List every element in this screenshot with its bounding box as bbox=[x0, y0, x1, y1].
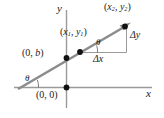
diagram-canvas bbox=[0, 0, 164, 118]
origin-label: (0, 0) bbox=[36, 90, 58, 100]
point-x2-y2 bbox=[122, 24, 128, 30]
y-intercept-label: (0, b) bbox=[22, 48, 44, 58]
delta-x-label: Δx bbox=[93, 54, 103, 64]
point-x1-y1 bbox=[77, 49, 83, 55]
paren-close: ) bbox=[54, 89, 57, 100]
theta-label-at-x-axis: θ bbox=[25, 74, 29, 83]
paren-close: ) bbox=[40, 47, 43, 58]
delta-y-label: Δy bbox=[130, 30, 140, 40]
paren-close: ) bbox=[127, 1, 130, 12]
point-origin bbox=[64, 85, 70, 91]
theta-label-at-point1: θ bbox=[96, 38, 100, 47]
y-axis-label: y bbox=[57, 3, 62, 14]
slope-diagram: y x (x2, y2) (x1, y1) Δy Δx (0, b) (0, 0… bbox=[0, 0, 164, 118]
paren-close: ) bbox=[83, 26, 86, 37]
point-label-x1-y1: (x1, y1) bbox=[60, 27, 87, 38]
point-label-x2-y2: (x2, y2) bbox=[104, 2, 131, 13]
theta-arc-at-x-axis bbox=[37, 80, 38, 88]
x-axis-label: x bbox=[146, 88, 151, 99]
point-y-intercept bbox=[64, 55, 70, 61]
